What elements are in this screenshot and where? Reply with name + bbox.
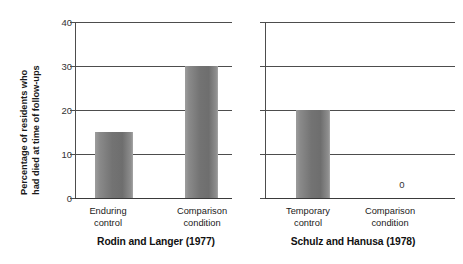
category-label-enduring-control: Enduring control	[78, 206, 138, 229]
category-label-line-1: Enduring	[78, 206, 138, 218]
category-label-line-1: Temporary	[272, 206, 344, 218]
category-label-comparison-condition-left: Comparison condition	[166, 206, 238, 229]
y-tick-label-20: 20	[48, 106, 72, 116]
category-label-line-2: condition	[354, 218, 426, 230]
group-title-rodin-langer: Rodin and Langer (1977)	[66, 236, 246, 247]
gridline-40-right	[265, 22, 455, 23]
panel-rodin-langer	[75, 22, 232, 198]
gridline-40-left	[75, 22, 232, 23]
category-label-line-1: Comparison	[354, 206, 426, 218]
category-label-line-1: Comparison	[166, 206, 238, 218]
category-label-line-2: condition	[166, 218, 238, 230]
gridline-10-right	[265, 154, 455, 155]
gridline-30-right	[265, 66, 455, 67]
y-tick-label-10: 10	[48, 150, 72, 160]
category-label-comparison-condition-right: Comparison condition	[354, 206, 426, 229]
category-label-line-2: control	[272, 218, 344, 230]
category-label-temporary-control: Temporary control	[272, 206, 344, 229]
y-tick-label-30: 30	[48, 62, 72, 72]
y-axis-label-line-2: had died at time of follow-ups	[31, 65, 41, 195]
y-tick-label-0: 0	[48, 194, 72, 204]
bar-value-label-comparison-condition-right: 0	[385, 179, 419, 190]
bar-chart-figure: Percentage of residents who had died at …	[0, 0, 463, 264]
bar-enduring-control	[95, 132, 133, 198]
y-axis-label: Percentage of residents who had died at …	[0, 0, 46, 205]
axis-baseline-left	[75, 198, 232, 199]
bar-temporary-control	[296, 110, 330, 198]
gridline-20-right	[265, 110, 455, 111]
y-tick-label-40: 40	[48, 18, 72, 28]
y-axis-label-line-1: Percentage of residents who	[19, 70, 29, 195]
panel-schulz-hanusa: 0	[265, 22, 455, 198]
group-title-schulz-hanusa: Schulz and Hanusa (1978)	[258, 236, 448, 247]
bar-comparison-condition-left	[185, 66, 218, 198]
category-label-line-2: control	[78, 218, 138, 230]
axis-baseline-right	[265, 198, 455, 199]
